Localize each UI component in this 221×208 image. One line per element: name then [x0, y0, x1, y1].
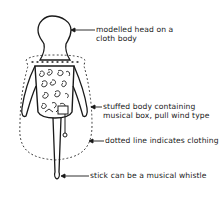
annotation-body-line-2: musical box, pull wind type — [103, 111, 209, 120]
stick — [53, 118, 61, 179]
music-box — [58, 106, 68, 114]
annotation-body: stuffed body containing musical box, pul… — [103, 102, 209, 120]
right-arm — [73, 66, 87, 117]
annotation-clothing: dotted line indicates clothing — [105, 136, 219, 145]
annotation-head-line-2: cloth body — [96, 34, 173, 43]
annotation-stick: stick can be a musical whistle — [90, 171, 207, 180]
annotation-stick-line-1: stick can be a musical whistle — [90, 171, 207, 180]
doll-head — [38, 16, 71, 60]
pull-ring — [63, 133, 67, 137]
annotation-head: modelled head on a cloth body — [96, 25, 173, 43]
annotation-head-line-1: modelled head on a — [96, 25, 173, 34]
annotation-clothing-line-1: dotted line indicates clothing — [105, 136, 219, 145]
left-arm — [22, 66, 36, 117]
annotation-body-line-1: stuffed body containing — [103, 102, 209, 111]
